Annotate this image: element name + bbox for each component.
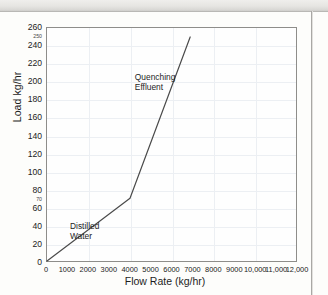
y-axis-tick-label: 220 — [16, 58, 42, 68]
y-axis-tick-label: 120 — [16, 149, 42, 159]
y-axis-tick-label: 200 — [16, 76, 42, 86]
y-axis-tick-label: 180 — [16, 94, 42, 104]
annotation-distilled-water: DistilledWater — [70, 221, 99, 241]
x-axis-tick-label: 12,000 — [282, 265, 312, 274]
annotation-line-2: Water — [70, 231, 99, 241]
y-axis-minor-tick-label: 70 — [16, 196, 42, 202]
y-axis-tick-label: 160 — [16, 112, 42, 122]
plot-area: DistilledWaterQuenchingEffluent — [46, 27, 297, 262]
annotation-line-1: Distilled — [70, 221, 99, 231]
y-axis-tick-label: 40 — [16, 221, 42, 231]
annotation-quenching-effluent: QuenchingEffluent — [135, 72, 176, 92]
x-axis-title: Flow Rate (kg/hr) — [40, 275, 290, 287]
data-line-load-vs-flow — [47, 37, 190, 261]
y-axis-tick-label: 20 — [16, 239, 42, 249]
y-axis-tick-label: 60 — [16, 203, 42, 213]
y-axis-tick-label: 240 — [16, 40, 42, 50]
scan-right-page-edge-shadow — [312, 11, 313, 295]
y-axis-tick-label: 100 — [16, 167, 42, 177]
y-axis-minor-tick-label: 250 — [16, 33, 42, 39]
scan-top-band — [0, 0, 328, 11]
y-axis-tick-label: 260 — [16, 22, 42, 32]
annotation-line-1: Quenching — [135, 72, 176, 82]
y-axis-tick-label: 140 — [16, 131, 42, 141]
annotation-line-2: Effluent — [135, 82, 176, 92]
y-axis-tick-label: 80 — [16, 185, 42, 195]
chart-figure: Load kg/hr Flow Rate (kg/hr) 02040608010… — [0, 11, 311, 295]
